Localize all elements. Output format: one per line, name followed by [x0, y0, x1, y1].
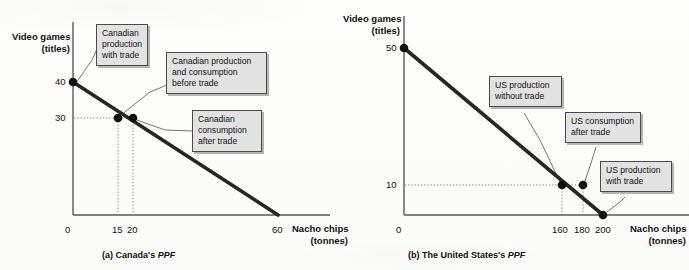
- us-xtick-160: 160: [552, 224, 568, 235]
- us-point-consumption-after-trade[interactable]: [579, 181, 588, 190]
- canada-x-axis-title-line1: Nacho chips: [292, 223, 349, 234]
- canada-caption-ppf: PPF: [158, 250, 176, 260]
- us-ytick-50: 50: [386, 42, 397, 53]
- us-leader-consumption-after-trade: [585, 147, 596, 181]
- callout-us-production-with-trade[interactable]: US production with trade: [600, 161, 672, 192]
- us-y-axis-title-line1: Video games: [343, 13, 401, 24]
- canada-caption-prefix: (a) Canada's: [102, 250, 158, 260]
- us-point-production-without-trade[interactable]: [558, 181, 567, 190]
- callout-us-consumption-after-trade[interactable]: US consumption after trade: [565, 112, 641, 143]
- canada-ytick-30: 30: [55, 112, 66, 123]
- canada-point-production-with-trade[interactable]: [69, 78, 78, 87]
- us-xtick-200: 200: [595, 224, 611, 235]
- us-y-axis-title-line2: (titles): [343, 25, 400, 36]
- canada-point-consumption-after-trade[interactable]: [129, 114, 138, 123]
- us-xtick-180: 180: [574, 224, 590, 235]
- canada-caption: (a) Canada's PPF: [102, 250, 175, 261]
- us-caption-prefix: (b) The United States's: [408, 250, 508, 260]
- us-ytick-10: 10: [386, 179, 397, 190]
- canada-xtick-60: 60: [272, 224, 283, 235]
- canada-ytick-40: 40: [55, 76, 66, 87]
- us-point-production-with-trade[interactable]: [599, 211, 608, 220]
- canada-x-axis-title-line2: (tonnes): [292, 235, 348, 246]
- canada-leader-before-trade: [121, 85, 167, 115]
- us-caption: (b) The United States's PPF: [408, 250, 525, 261]
- canada-y-axis-title-line1: Video games: [12, 31, 70, 42]
- callout-canadian-production-and-consumption-before-trade[interactable]: Canadian production and consumption befo…: [166, 52, 267, 94]
- figure-container: Video games (titles) 40 30 0 15 20 60 Na…: [0, 0, 689, 270]
- canada-xtick-15: 15: [112, 224, 123, 235]
- canada-point-before-trade[interactable]: [114, 114, 123, 123]
- us-origin-label: 0: [396, 224, 401, 235]
- us-point-vertical-intercept[interactable]: [400, 44, 409, 53]
- canada-y-axis-title-line2: (titles): [12, 43, 70, 54]
- us-x-axis-title-line1: Nacho chips: [630, 223, 687, 234]
- us-caption-ppf: PPF: [508, 250, 526, 260]
- canada-xtick-20: 20: [127, 224, 138, 235]
- callout-canadian-production-with-trade[interactable]: Canadian production with trade: [96, 24, 148, 66]
- canada-leader-production-with-trade: [76, 49, 97, 83]
- us-leader-production-with-trade: [607, 197, 625, 212]
- us-leader-production-without-trade: [524, 113, 560, 182]
- callout-canadian-consumption-after-trade[interactable]: Canadian consumption after trade: [192, 110, 262, 152]
- us-x-axis-title-line2: (tonnes): [630, 235, 686, 246]
- callout-us-production-without-trade[interactable]: US production without trade: [489, 76, 562, 107]
- canada-origin-label: 0: [65, 224, 70, 235]
